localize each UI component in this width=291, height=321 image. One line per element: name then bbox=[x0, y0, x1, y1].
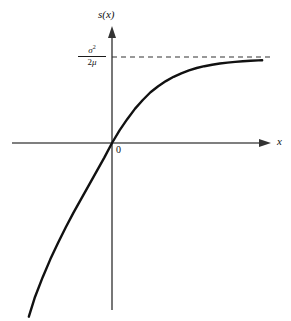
curve-s-of-x bbox=[29, 60, 262, 317]
mu-symbol: μ bbox=[92, 57, 97, 67]
x-axis-label: x bbox=[277, 136, 282, 147]
y-axis-label: s(x) bbox=[98, 9, 115, 20]
math-plot bbox=[0, 0, 291, 321]
y-axis-arrowhead bbox=[108, 26, 116, 38]
figure-canvas: s(x) x 0 σ2 2μ bbox=[0, 0, 291, 321]
asymptote-denominator: 2μ bbox=[76, 57, 108, 67]
x-axis-arrowhead bbox=[259, 139, 271, 147]
origin-label: 0 bbox=[116, 145, 121, 155]
sigma-exponent: 2 bbox=[93, 44, 96, 50]
asymptote-value-label: σ2 2μ bbox=[76, 44, 108, 68]
axes-group bbox=[12, 26, 271, 310]
asymptote-numerator: σ2 bbox=[76, 44, 108, 56]
